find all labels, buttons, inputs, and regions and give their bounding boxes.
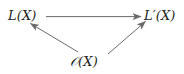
node-label-o: 𝒪(X) [70, 55, 98, 68]
node-label-l: L(X) [8, 9, 36, 22]
commutative-diagram: L(X) L′(X) 𝒪(X) [0, 0, 184, 74]
node-label-l-prime: L′(X) [144, 9, 175, 22]
arrow-o-to-lprime [108, 22, 146, 55]
arrow-o-to-l [31, 24, 79, 53]
